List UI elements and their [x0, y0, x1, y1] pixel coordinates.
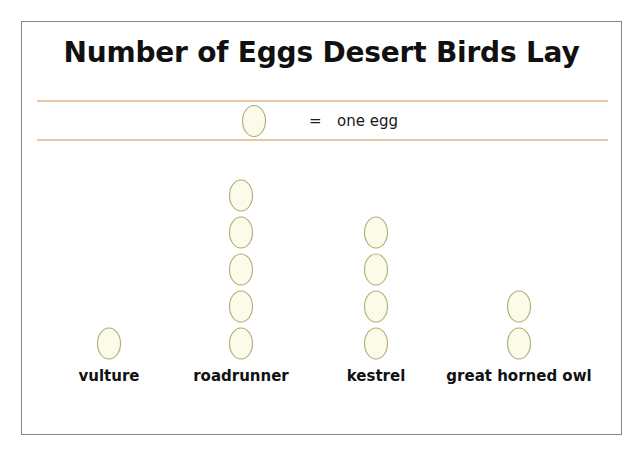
egg-column	[228, 175, 254, 360]
category-label: roadrunner	[171, 367, 311, 386]
egg-icon	[363, 216, 389, 249]
egg-column	[96, 323, 122, 360]
legend-unit-label: one egg	[337, 112, 398, 130]
pictograph-plot-area	[22, 147, 623, 360]
egg-icon	[228, 179, 254, 212]
egg-icon	[228, 327, 254, 360]
category-label: kestrel	[316, 367, 436, 386]
category-axis: vultureroadrunnerkestrelgreat horned owl	[22, 367, 623, 427]
egg-column	[506, 286, 532, 360]
egg-icon	[96, 327, 122, 360]
egg-icon	[363, 290, 389, 323]
category-label: vulture	[49, 367, 169, 386]
egg-icon	[228, 253, 254, 286]
egg-column	[363, 212, 389, 360]
legend-egg-icon	[241, 104, 267, 137]
chart-legend: = one egg	[37, 100, 608, 141]
egg-icon	[363, 327, 389, 360]
egg-icon	[506, 327, 532, 360]
egg-icon	[363, 253, 389, 286]
egg-icon	[228, 290, 254, 323]
chart-title: Number of Eggs Desert Birds Lay	[22, 36, 621, 69]
category-label: great horned owl	[444, 367, 594, 386]
legend-equals-sign: =	[309, 112, 322, 130]
egg-icon	[228, 216, 254, 249]
chart-frame: Number of Eggs Desert Birds Lay = one eg…	[21, 21, 622, 435]
egg-icon	[506, 290, 532, 323]
